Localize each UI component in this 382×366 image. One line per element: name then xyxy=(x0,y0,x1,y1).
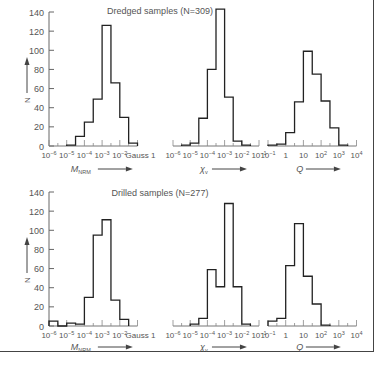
histogram-bars xyxy=(268,51,348,146)
x-tick-label: 102 xyxy=(315,150,327,160)
svg-text:MNRM: MNRM xyxy=(71,164,91,175)
svg-text:10−6: 10−6 xyxy=(165,330,180,340)
x-tick-label: 104 xyxy=(351,330,363,340)
svg-text:103: 103 xyxy=(333,330,345,340)
subplot-q: 10−1110102103104Q xyxy=(260,51,362,174)
x-tick-label: 103 xyxy=(333,150,345,160)
svg-text:10−4: 10−4 xyxy=(200,330,215,340)
histogram-bars xyxy=(268,224,330,326)
x-tick-label: 10 xyxy=(299,151,308,160)
subplot-chi: 10−610−510−410−310−210−1χv xyxy=(165,9,266,175)
svg-text:10−5: 10−5 xyxy=(183,150,198,160)
x-axis-label: χv xyxy=(199,164,247,175)
y-tick-label: 140 xyxy=(29,188,44,198)
y-tick-label: 140 xyxy=(29,8,44,18)
top-panel: 020406080100120140NDredged samples (N=30… xyxy=(23,6,362,175)
x-axis-label: MNRM xyxy=(71,342,133,353)
svg-text:102: 102 xyxy=(315,150,327,160)
y-tick-label: 80 xyxy=(34,65,44,75)
x-tick-label: 10−1 xyxy=(260,330,275,340)
y-tick-label: 60 xyxy=(34,84,44,94)
svg-text:10−4: 10−4 xyxy=(77,150,92,160)
svg-text:10: 10 xyxy=(299,151,308,160)
svg-text:χv: χv xyxy=(199,164,208,175)
x-axis-label: MNRM xyxy=(71,164,133,175)
y-tick-label: 40 xyxy=(34,103,44,113)
x-tick-label: 10−5 xyxy=(59,150,74,160)
histogram-bars xyxy=(49,220,129,326)
subplot-m: 10−610−510−410−310−2Gauss 1MNRM xyxy=(41,220,156,353)
svg-text:10−3: 10−3 xyxy=(95,150,110,160)
svg-text:104: 104 xyxy=(351,330,363,340)
svg-text:102: 102 xyxy=(315,330,327,340)
x-tick-label: 10−6 xyxy=(165,330,180,340)
x-tick-label: 10−2 xyxy=(234,330,249,340)
y-tick-label: 100 xyxy=(29,46,44,56)
svg-text:10−6: 10−6 xyxy=(41,330,56,340)
x-tick-label: 1 xyxy=(283,331,288,340)
y-tick-label: 60 xyxy=(34,264,44,274)
x-tick-label: 10−4 xyxy=(77,150,92,160)
svg-text:MNRM: MNRM xyxy=(71,342,91,353)
svg-text:10−5: 10−5 xyxy=(183,330,198,340)
x-tick-label: 103 xyxy=(333,330,345,340)
x-tick-label: 10−5 xyxy=(183,150,198,160)
y-axis-label: N xyxy=(23,277,32,283)
y-tick-label: 120 xyxy=(29,207,44,217)
bottom-panel: 020406080100120140NDrilled samples (N=27… xyxy=(23,188,362,354)
panel-title: Drilled samples (N=277) xyxy=(112,188,209,198)
histogram-figure: 020406080100120140NDredged samples (N=30… xyxy=(0,0,382,366)
x-tick-label: 10−5 xyxy=(59,330,74,340)
x-tick-label: 10−3 xyxy=(95,150,110,160)
x-tick-label: 10−5 xyxy=(183,330,198,340)
y-tick-label: 40 xyxy=(34,283,44,293)
svg-text:10−5: 10−5 xyxy=(59,150,74,160)
x-tick-label: 10−1 xyxy=(260,150,275,160)
y-tick-label: 120 xyxy=(29,27,44,37)
x-axis-label: Q xyxy=(296,164,341,174)
svg-text:10−2: 10−2 xyxy=(234,330,249,340)
histogram-bars xyxy=(67,25,138,146)
x-tick-label: 10−6 xyxy=(41,330,56,340)
svg-text:10−5: 10−5 xyxy=(59,330,74,340)
x-tick-label: Gauss 1 xyxy=(126,151,156,160)
svg-text:10−3: 10−3 xyxy=(217,150,232,160)
x-tick-label: 1 xyxy=(283,151,288,160)
x-axis-label: χv xyxy=(199,342,247,353)
svg-text:1: 1 xyxy=(283,331,288,340)
y-tick-label: 0 xyxy=(39,322,44,332)
y-tick-label: 100 xyxy=(29,226,44,236)
svg-text:χv: χv xyxy=(199,342,208,353)
svg-text:10−6: 10−6 xyxy=(41,150,56,160)
x-tick-label: 104 xyxy=(351,150,363,160)
y-axis-label: N xyxy=(23,97,32,103)
x-tick-label: 10−4 xyxy=(200,150,215,160)
histogram-bars xyxy=(182,9,251,146)
svg-text:Q: Q xyxy=(296,164,303,174)
x-tick-label: 10−3 xyxy=(95,330,110,340)
subplot-q: 10−1110102103104Q xyxy=(260,224,362,352)
svg-text:10−2: 10−2 xyxy=(234,150,249,160)
y-tick-label: 20 xyxy=(34,122,44,132)
svg-text:104: 104 xyxy=(351,150,363,160)
x-tick-label: 102 xyxy=(315,330,327,340)
x-tick-label: 10−3 xyxy=(217,150,232,160)
x-tick-label: 10−6 xyxy=(41,150,56,160)
svg-text:103: 103 xyxy=(333,150,345,160)
x-tick-label: 10−4 xyxy=(200,330,215,340)
y-tick-label: 0 xyxy=(39,142,44,152)
svg-text:1: 1 xyxy=(283,151,288,160)
y-tick-label: 80 xyxy=(34,245,44,255)
subplot-chi: 10−610−510−410−310−210−1χv xyxy=(165,203,266,353)
svg-text:10−1: 10−1 xyxy=(260,150,275,160)
x-tick-label: 10−4 xyxy=(77,330,92,340)
histogram-bars xyxy=(190,203,250,326)
svg-text:10−4: 10−4 xyxy=(77,330,92,340)
x-tick-label: 10−2 xyxy=(234,150,249,160)
svg-text:10−6: 10−6 xyxy=(165,150,180,160)
svg-text:10: 10 xyxy=(299,331,308,340)
x-tick-label: Gauss 1 xyxy=(126,331,156,340)
x-tick-label: 10 xyxy=(299,331,308,340)
svg-text:10−1: 10−1 xyxy=(260,330,275,340)
svg-text:10−3: 10−3 xyxy=(217,330,232,340)
